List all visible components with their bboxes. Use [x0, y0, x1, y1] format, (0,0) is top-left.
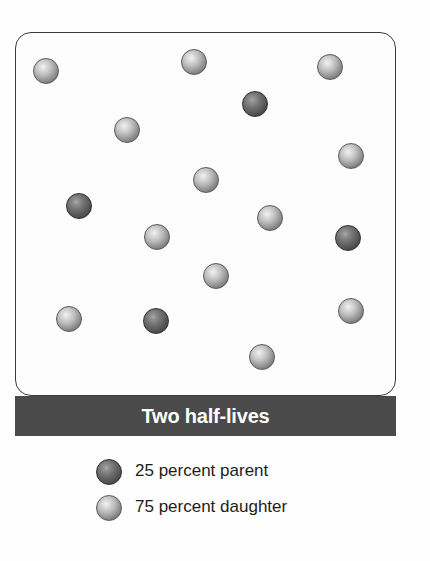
daughter-atom-sphere-icon	[338, 143, 364, 169]
half-lives-figure: Two half-lives 25 percent parent 75 perc…	[0, 0, 430, 561]
caption-bar: Two half-lives	[15, 396, 396, 436]
legend: 25 percent parent 75 percent daughter	[96, 456, 376, 528]
daughter-atom-sphere-icon	[338, 298, 364, 324]
daughter-atom-sphere-icon	[257, 205, 283, 231]
daughter-atom-sphere-icon	[56, 306, 82, 332]
daughter-atom-sphere-icon	[114, 117, 140, 143]
parent-atom-sphere-icon	[335, 225, 361, 251]
daughter-atom-sphere-icon	[317, 54, 343, 80]
daughter-atom-sphere-icon	[203, 263, 229, 289]
daughter-atom-sphere-icon	[181, 49, 207, 75]
parent-atom-sphere-icon	[66, 193, 92, 219]
daughter-atom-sphere-icon	[249, 344, 275, 370]
legend-item-daughter: 75 percent daughter	[96, 492, 376, 528]
caption-text: Two half-lives	[142, 405, 270, 428]
daughter-atom-sphere-icon	[193, 167, 219, 193]
daughter-atom-sphere-icon	[144, 224, 170, 250]
legend-swatch-daughter-sphere-icon	[96, 495, 122, 521]
legend-item-parent: 25 percent parent	[96, 456, 376, 492]
legend-label-daughter: 75 percent daughter	[135, 493, 287, 521]
daughter-atom-sphere-icon	[33, 58, 59, 84]
parent-atom-sphere-icon	[143, 308, 169, 334]
legend-swatch-parent-sphere-icon	[96, 459, 122, 485]
legend-label-parent: 25 percent parent	[135, 457, 268, 485]
parent-atom-sphere-icon	[242, 91, 268, 117]
